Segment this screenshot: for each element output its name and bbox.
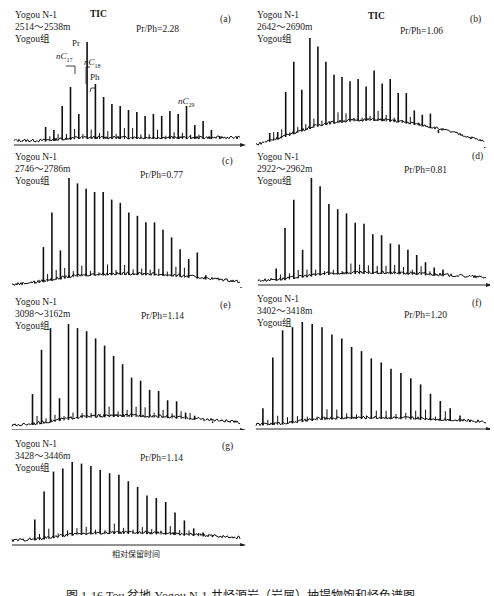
panel-e-pr-ph-ratio: Pr/Ph=1.14: [141, 311, 184, 321]
panel-d-info: Yogou N-1 2922～2962m Yogou组: [257, 151, 312, 187]
panel-f-tag: (f): [472, 298, 482, 308]
panel-a-depth: 2514～2538m: [15, 21, 70, 33]
panel-d-tag: (d): [472, 151, 483, 161]
chromatogram-panel-e: Yogou N-1 3098～3162m Yogou组 Pr/Ph=1.14 (…: [8, 290, 248, 430]
panel-e-well: Yogou N-1: [15, 296, 70, 308]
panel-g-info: Yogou N-1 3428～3446m Yogou组: [15, 438, 70, 474]
panel-a-formation: Yogou组: [15, 33, 70, 45]
nc29-annotation: nC29: [178, 96, 195, 108]
panel-b-well: Yogou N-1: [257, 9, 312, 21]
panel-e-tag: (e): [220, 300, 231, 310]
panel-b-tag: (b): [470, 14, 481, 24]
chromatogram-panel-f: Yogou N-1 3402～3418m Yogou组 Pr/Ph=1.20 (…: [254, 290, 490, 430]
panel-c-well: Yogou N-1: [15, 151, 70, 163]
panel-c-tag: (c): [222, 156, 233, 166]
panel-f-pr-ph-ratio: Pr/Ph=1.20: [404, 310, 447, 320]
ph-annotation: Ph: [90, 72, 100, 82]
panel-a-well: Yogou N-1: [15, 9, 70, 21]
panel-d-formation: Yogou组: [257, 175, 312, 187]
nc18-annotation: nC18: [84, 57, 101, 69]
panel-g-formation: Yogou组: [15, 462, 70, 474]
panel-g-depth: 3428～3446m: [15, 450, 70, 462]
panel-g-tag: (g): [222, 441, 233, 451]
panel-e-info: Yogou N-1 3098～3162m Yogou组: [15, 296, 70, 332]
panel-f-formation: Yogou组: [257, 317, 312, 329]
panel-c-info: Yogou N-1 2746～2786m Yogou组: [15, 151, 70, 187]
panel-d-depth: 2922～2962m: [257, 163, 312, 175]
panel-a-tic-label: TIC: [90, 9, 107, 19]
figure-caption: 图 1-16 Tou 盆地 Yogou N-1 井烃源岩（岩屑）抽提物饱和烃色谱…: [66, 586, 415, 596]
panel-f-depth: 3402～3418m: [257, 305, 312, 317]
panel-e-depth: 3098～3162m: [15, 308, 70, 320]
panel-c-depth: 2746～2786m: [15, 163, 70, 175]
panel-a-pr-ph-ratio: Pr/Ph=2.28: [136, 24, 179, 34]
panel-a-tag: (a): [220, 14, 231, 24]
nc17-annotation: nC17: [56, 51, 73, 63]
panel-f-well: Yogou N-1: [257, 293, 312, 305]
panel-f-info: Yogou N-1 3402～3418m Yogou组: [257, 293, 312, 329]
panel-c-formation: Yogou组: [15, 175, 70, 187]
x-axis-label: 相对保留时间: [112, 548, 160, 559]
panel-g-pr-ph-ratio: Pr/Ph=1.14: [140, 453, 183, 463]
panel-b-tic-label: TIC: [368, 11, 385, 21]
chromatogram-panel-g: Yogou N-1 3428～3446m Yogou组 Pr/Ph=1.14 (…: [8, 432, 248, 546]
chromatogram-panel-b: Yogou N-1 2642～2690m Yogou组 TIC Pr/Ph=1.…: [254, 0, 490, 148]
panel-c-pr-ph-ratio: Pr/Ph=0.77: [140, 170, 183, 180]
panel-a-info: Yogou N-1 2514～2538m Yogou组: [15, 9, 70, 45]
panel-b-formation: Yogou组: [257, 33, 312, 45]
panel-b-depth: 2642～2690m: [257, 21, 312, 33]
pr-annotation: Pr: [72, 38, 80, 48]
panel-b-info: Yogou N-1 2642～2690m Yogou组: [257, 9, 312, 45]
panel-b-pr-ph-ratio: Pr/Ph=1.06: [400, 26, 443, 36]
panel-d-well: Yogou N-1: [257, 151, 312, 163]
panel-d-pr-ph-ratio: Pr/Ph=0.81: [404, 165, 447, 175]
chromatogram-panel-d: Yogou N-1 2922～2962m Yogou组 Pr/Ph=0.81 (…: [254, 148, 490, 288]
panel-g-well: Yogou N-1: [15, 438, 70, 450]
chromatogram-panel-c: Yogou N-1 2746～2786m Yogou组 Pr/Ph=0.77 (…: [8, 148, 248, 288]
panel-e-formation: Yogou组: [15, 320, 70, 332]
chromatogram-panel-a: Yogou N-1 2514～2538m Yogou组 TIC Pr/Ph=2.…: [8, 0, 248, 148]
